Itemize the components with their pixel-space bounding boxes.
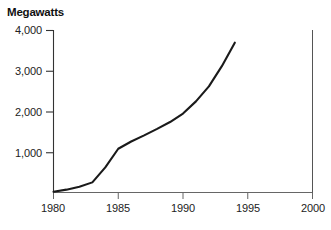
x-tick-label-1990: 1990 <box>171 202 195 214</box>
x-tick-label-1985: 1985 <box>106 202 130 214</box>
x-tick-label-2000: 2000 <box>301 202 325 214</box>
x-tick-label-1980: 1980 <box>41 202 65 214</box>
y-axis-ticks <box>46 31 54 153</box>
y-tick-label-4000: 4,000 <box>0 24 42 36</box>
chart-plot-area <box>0 0 331 230</box>
x-tick-label-1995: 1995 <box>236 202 260 214</box>
x-axis-ticks <box>54 193 313 200</box>
y-tick-label-3000: 3,000 <box>0 65 42 77</box>
y-tick-label-2000: 2,000 <box>0 106 42 118</box>
chart-figure: Megawatts 4,000 3,000 2,000 1,000 19 <box>0 0 331 230</box>
y-tick-label-1000: 1,000 <box>0 147 42 159</box>
data-series-line <box>54 43 235 192</box>
